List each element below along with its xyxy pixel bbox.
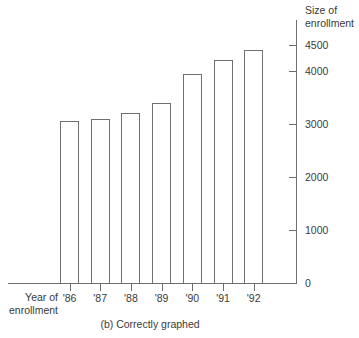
- figure-caption: (b) Correctly graphed: [0, 318, 300, 330]
- x-axis-tick-label: '89: [147, 292, 177, 304]
- y-axis-tick-label: 0: [305, 278, 311, 289]
- x-axis-tick: [254, 284, 255, 291]
- x-axis-title-line-2: enrollment: [8, 304, 58, 317]
- x-axis-tick-label: '88: [116, 292, 146, 304]
- bar: [244, 50, 263, 283]
- x-axis-tick-label: '91: [208, 292, 238, 304]
- bar: [152, 103, 171, 283]
- y-axis-tick: [289, 230, 297, 231]
- bar: [91, 119, 110, 283]
- y-axis-tick-label: 4500: [305, 40, 328, 51]
- x-axis-tick: [192, 284, 193, 291]
- y-axis-tick: [289, 45, 297, 46]
- x-axis-title: Year of enrollment: [8, 291, 58, 316]
- x-axis-tick: [162, 284, 163, 291]
- y-axis-tick-label: 4000: [305, 66, 328, 77]
- x-axis-title-line-1: Year of: [8, 291, 58, 304]
- y-axis-line: [296, 20, 297, 284]
- bar: [183, 74, 202, 283]
- y-axis-tick-label: 2000: [305, 172, 328, 183]
- x-axis-tick-label: '90: [177, 292, 207, 304]
- x-axis-tick: [70, 284, 71, 291]
- bar: [60, 121, 79, 283]
- x-axis-tick-label: '92: [239, 292, 269, 304]
- y-axis-tick: [289, 71, 297, 72]
- y-axis-tick: [289, 124, 297, 125]
- y-axis-tick: [289, 283, 297, 284]
- x-axis-tick: [131, 284, 132, 291]
- x-axis-tick: [100, 284, 101, 291]
- y-axis-tick-label: 3000: [305, 119, 328, 130]
- x-axis-tick: [223, 284, 224, 291]
- x-axis-tick-label: '86: [55, 292, 85, 304]
- bar-chart-figure: Size of enrollment 010002000300040004500…: [0, 0, 359, 338]
- bar: [121, 113, 140, 283]
- y-axis-title: Size of enrollment: [305, 4, 359, 29]
- x-axis-tick-label: '87: [85, 292, 115, 304]
- y-axis-title-line-1: Size of: [305, 4, 359, 17]
- y-axis-tick: [289, 177, 297, 178]
- y-axis-tick-label: 1000: [305, 225, 328, 236]
- bar: [214, 60, 233, 283]
- y-axis-title-line-2: enrollment: [305, 17, 359, 30]
